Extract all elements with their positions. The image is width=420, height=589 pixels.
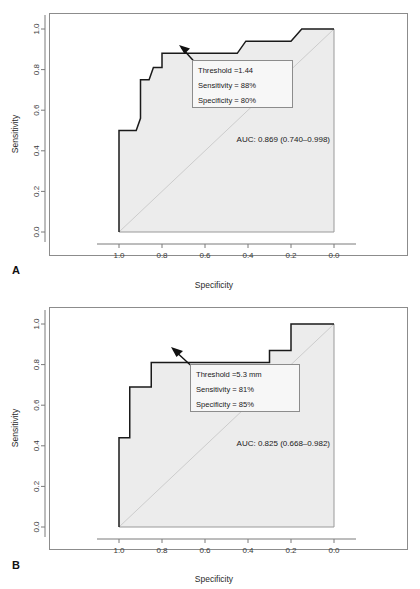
panel-a-x-axis-title: Specificity (195, 280, 234, 290)
panel-b-x-axis-title: Specificity (195, 574, 234, 584)
panel-b-y-axis-title: Sensitivity (10, 408, 20, 447)
panel-b-y-tick-label: 0.4 (32, 440, 41, 452)
panel-b-x-tick-label: 0.8 (156, 546, 168, 555)
panel-b-x-tick-label: 0.6 (199, 546, 211, 555)
panel-b-x-tick-label: 0.0 (328, 546, 340, 555)
panel-b-y-tick-label: 0.2 (32, 480, 41, 492)
panel-b-y-tick-label: 1.0 (32, 318, 41, 330)
panel-b-y-axis: 0.00.20.40.60.81.0 (32, 310, 45, 537)
panel-a-x-axis: 1.00.80.60.40.20.0 (97, 244, 356, 260)
panel-b-plot: 1.00.80.60.40.20.0 0.00.20.40.60.81.0 Sp… (0, 295, 420, 589)
panel-b-y-tick-label: 0.8 (32, 358, 41, 370)
panel-b-callout-sensitivity: Sensitivity = 81% (196, 385, 254, 394)
panel-a-x-tick-label: 0.6 (199, 251, 211, 260)
panel-b-x-tick-label: 0.2 (285, 546, 297, 555)
panel-a-plot: 1.00.80.60.40.20.0 0.00.20.40.60.81.0 Sp… (0, 0, 420, 295)
panel-a-y-axis-title: Sensitivity (10, 114, 20, 153)
panel-b-callout-threshold: Threshold =5.3 mm (196, 370, 262, 379)
panel-a-threshold-callout: Threshold =1.44 Sensitivity = 88% Specif… (193, 61, 293, 108)
panel-b-y-tick-label: 0.0 (32, 521, 41, 533)
panel-a: 1.00.80.60.40.20.0 0.00.20.40.60.81.0 Sp… (0, 0, 420, 295)
panel-b-threshold-callout: Threshold =5.3 mm Sensitivity = 81% Spec… (191, 365, 300, 412)
panel-a-x-tick-label: 0.0 (328, 251, 340, 260)
panel-a-callout-sensitivity: Sensitivity = 88% (198, 81, 256, 90)
panel-a-x-tick-label: 0.2 (285, 251, 297, 260)
panel-b-x-tick-label: 0.4 (242, 546, 254, 555)
roc-figure: 1.00.80.60.40.20.0 0.00.20.40.60.81.0 Sp… (0, 0, 420, 589)
panel-a-y-tick-label: 1.0 (32, 23, 41, 35)
panel-b-auc-label: AUC: 0.825 (0.668–0.982) (237, 439, 331, 448)
panel-b-letter: B (12, 559, 20, 571)
panel-b-x-axis: 1.00.80.60.40.20.0 (97, 539, 356, 555)
panel-a-y-tick-label: 0.2 (32, 185, 41, 197)
panel-a-x-tick-label: 0.8 (156, 251, 168, 260)
panel-a-x-tick-label: 0.4 (242, 251, 254, 260)
panel-a-letter: A (12, 264, 20, 276)
panel-a-y-tick-label: 0.0 (32, 226, 41, 238)
panel-a-y-tick-label: 0.6 (32, 104, 41, 116)
panel-a-y-tick-label: 0.8 (32, 63, 41, 75)
panel-b-callout-specificity: Specificity = 85% (196, 400, 254, 409)
panel-a-callout-threshold: Threshold =1.44 (198, 66, 253, 75)
panel-a-auc-label: AUC: 0.869 (0.740–0.998) (237, 135, 331, 144)
panel-a-callout-specificity: Specificity = 80% (198, 96, 256, 105)
panel-b-y-tick-label: 0.6 (32, 399, 41, 411)
panel-b-x-tick-label: 1.0 (113, 546, 125, 555)
panel-a-y-tick-label: 0.4 (32, 145, 41, 157)
panel-b: 1.00.80.60.40.20.0 0.00.20.40.60.81.0 Sp… (0, 295, 420, 589)
panel-a-y-axis: 0.00.20.40.60.81.0 (32, 15, 45, 242)
panel-a-x-tick-label: 1.0 (113, 251, 125, 260)
